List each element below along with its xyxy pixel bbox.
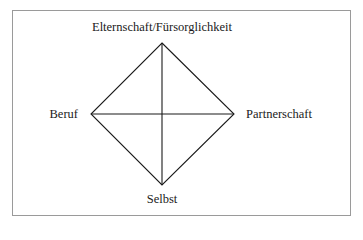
node-label-top: Elternschaft/Fürsorglichkeit [92,21,232,34]
node-label-right: Partnerschaft [246,108,312,121]
node-label-bottom: Selbst [147,193,178,206]
node-label-left: Beruf [50,108,78,121]
